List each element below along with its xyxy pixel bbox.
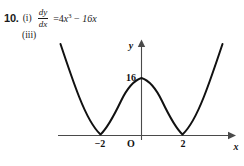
origin-label: O bbox=[127, 138, 135, 149]
page-root: 10. (i) dy dx =4x3 − 16x (iii) bbox=[0, 0, 244, 166]
y-axis bbox=[138, 40, 145, 141]
y-axis-label: y bbox=[128, 40, 134, 51]
x-tick-label-2: 2 bbox=[181, 138, 186, 149]
y-tick-label-16: 16 bbox=[126, 72, 136, 83]
x-axis-label: x bbox=[233, 141, 239, 152]
x-tick-label-minus-2: −2 bbox=[95, 138, 106, 149]
quartic-graph: y x 16 −2 2 O bbox=[0, 0, 244, 166]
x-axis bbox=[58, 132, 236, 139]
